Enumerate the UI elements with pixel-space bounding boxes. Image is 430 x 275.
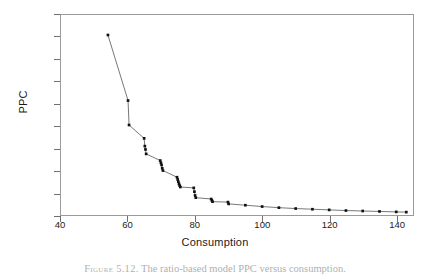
x-tick-label: 140 (377, 220, 417, 230)
y-axis-title: PPC (17, 72, 29, 132)
y-tick-mark (54, 126, 60, 127)
plot-canvas (61, 15, 413, 215)
data-point (160, 164, 163, 167)
data-point (328, 209, 331, 212)
y-tick-mark (54, 59, 60, 60)
x-tick-label: 120 (310, 220, 350, 230)
data-point (261, 205, 264, 208)
caption-text: The ratio-based model PPC versus consump… (141, 263, 346, 274)
data-point (345, 209, 348, 212)
data-point (192, 187, 195, 190)
data-point (145, 153, 148, 156)
y-tick-mark (54, 104, 60, 105)
y-tick-mark (54, 171, 60, 172)
data-point (227, 203, 230, 206)
data-point (143, 145, 146, 148)
data-point (395, 211, 398, 214)
data-series-markers (107, 34, 408, 214)
y-tick-mark (54, 81, 60, 82)
y-tick-mark (54, 36, 60, 37)
data-point (143, 137, 146, 140)
x-tick-label: 80 (175, 220, 215, 230)
data-point (294, 207, 297, 210)
y-tick-mark (54, 14, 60, 15)
data-point (211, 200, 214, 203)
data-point (361, 210, 364, 213)
data-point (311, 208, 314, 211)
data-point (144, 148, 147, 151)
x-tick-label: 40 (40, 220, 80, 230)
caption-lead: Figure 5.12. (84, 263, 138, 274)
data-point (244, 204, 247, 207)
data-point (278, 206, 281, 209)
x-tick-label: 60 (107, 220, 147, 230)
data-point (128, 124, 131, 127)
data-point (378, 210, 381, 213)
x-axis-title: Consumption (0, 236, 430, 248)
data-point (127, 99, 130, 102)
x-tick-label: 100 (242, 220, 282, 230)
y-tick-mark (54, 194, 60, 195)
data-point (194, 196, 197, 199)
figure-caption: Figure 5.12. The ratio-based model PPC v… (0, 263, 430, 275)
data-series-line (108, 35, 406, 212)
y-tick-mark (54, 149, 60, 150)
data-point (107, 34, 110, 37)
data-point (405, 211, 408, 214)
plot-frame (60, 14, 414, 216)
data-point (162, 169, 165, 172)
data-point (193, 190, 196, 193)
data-point (179, 186, 182, 189)
